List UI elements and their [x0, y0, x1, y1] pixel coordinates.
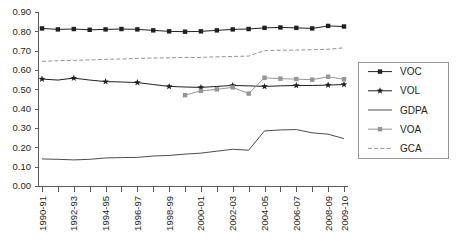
- series-line-gdpa: [42, 130, 344, 160]
- y-tick-label: 0.50: [13, 84, 32, 95]
- x-tick-label: 2009-10: [339, 196, 350, 231]
- x-axis: 1990-911992-931994-951996-971998-992000-…: [37, 187, 350, 231]
- x-tick-label: 2002-03: [227, 196, 238, 231]
- series-vol: [39, 75, 348, 91]
- data-point-marker: [72, 27, 76, 31]
- data-point-marker: [246, 91, 250, 95]
- data-point-marker: [39, 76, 46, 82]
- data-point-marker: [342, 77, 346, 81]
- x-tick-label: 1992-93: [68, 196, 79, 231]
- data-point-marker: [342, 24, 346, 28]
- series-gca: [42, 48, 344, 62]
- x-tick-label: 1994-95: [100, 196, 111, 231]
- data-point-marker: [215, 87, 219, 91]
- data-point-marker: [199, 29, 203, 33]
- data-point-marker: [325, 82, 332, 88]
- data-point-marker: [167, 29, 171, 33]
- data-point-marker: [183, 93, 187, 97]
- y-tick-label: 0.60: [13, 64, 32, 75]
- data-point-marker: [135, 27, 139, 31]
- y-tick-label: 0.70: [13, 45, 32, 56]
- x-tick-label: 2000-01: [195, 196, 206, 231]
- data-point-marker: [294, 26, 298, 30]
- legend-label-gca: GCA: [400, 143, 422, 154]
- chart-container: 0.000.100.200.300.400.500.600.700.800.90…: [0, 0, 460, 252]
- y-tick-label: 0.40: [13, 103, 32, 114]
- chart-legend: VOCVOLGDPAVOAGCA: [359, 63, 449, 159]
- x-tick-label: 1990-91: [37, 196, 48, 231]
- data-point-marker: [231, 85, 235, 89]
- data-point-marker: [378, 69, 382, 73]
- data-point-marker: [326, 75, 330, 79]
- x-tick-label: 2006-07: [291, 196, 302, 231]
- data-point-marker: [262, 26, 266, 30]
- data-point-marker: [278, 25, 282, 29]
- data-point-marker: [293, 82, 300, 88]
- y-tick-label: 0.80: [13, 26, 32, 37]
- legend-label-voa: VOA: [400, 124, 421, 135]
- data-point-marker: [294, 77, 298, 81]
- data-point-marker: [341, 81, 348, 87]
- data-point-marker: [70, 75, 77, 81]
- line-chart: 0.000.100.200.300.400.500.600.700.800.90…: [0, 0, 460, 252]
- data-point-marker: [199, 89, 203, 93]
- data-point-marker: [103, 27, 107, 31]
- data-point-marker: [40, 26, 44, 30]
- y-tick-label: 0.90: [13, 6, 32, 17]
- data-point-marker: [183, 30, 187, 34]
- legend-label-voc: VOC: [400, 66, 422, 77]
- data-point-marker: [278, 77, 282, 81]
- x-tick-label: 2008-09: [323, 196, 334, 231]
- series-gdpa: [42, 130, 344, 160]
- data-point-marker: [262, 76, 266, 80]
- x-tick-label: 1996-97: [132, 196, 143, 231]
- data-point-marker: [310, 26, 314, 30]
- data-point-marker: [310, 77, 314, 81]
- series-layer: [39, 24, 348, 160]
- data-point-marker: [134, 79, 141, 85]
- data-point-marker: [378, 127, 382, 131]
- y-tick-label: 0.00: [13, 180, 32, 191]
- data-point-marker: [102, 78, 109, 84]
- data-point-marker: [56, 27, 60, 31]
- series-voc: [40, 24, 346, 34]
- data-point-marker: [119, 27, 123, 31]
- x-tick-label: 1998-99: [164, 196, 175, 231]
- data-point-marker: [231, 27, 235, 31]
- y-tick-label: 0.10: [13, 161, 32, 172]
- data-point-marker: [326, 24, 330, 28]
- data-point-marker: [261, 83, 268, 89]
- series-line-gca: [42, 48, 344, 62]
- data-point-marker: [166, 83, 173, 89]
- y-tick-label: 0.20: [13, 142, 32, 153]
- data-point-marker: [246, 27, 250, 31]
- data-point-marker: [87, 28, 91, 32]
- y-axis: 0.000.100.200.300.400.500.600.700.800.90: [13, 6, 39, 191]
- series-line-voc: [42, 26, 344, 32]
- y-tick-label: 0.30: [13, 122, 32, 133]
- legend-label-vol: VOL: [400, 85, 420, 96]
- x-tick-label: 2004-05: [259, 196, 270, 231]
- legend-label-gdpa: GDPA: [400, 105, 428, 116]
- data-point-marker: [215, 28, 219, 32]
- data-point-marker: [151, 28, 155, 32]
